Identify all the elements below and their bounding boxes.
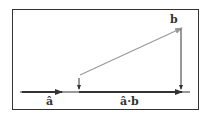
label-b: b xyxy=(170,14,178,25)
vector-b xyxy=(80,28,182,75)
label-a-hat: â xyxy=(46,96,53,107)
label-projection: â·b xyxy=(120,96,139,107)
